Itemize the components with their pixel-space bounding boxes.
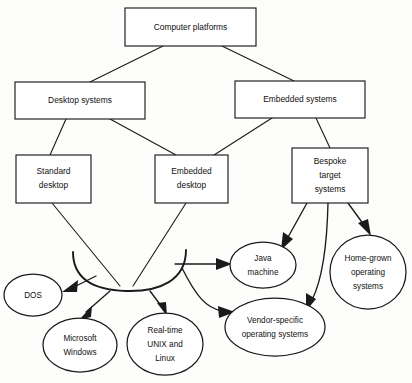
node-standard-desktop-label-line-2: desktop (39, 180, 69, 190)
node-java-machine[interactable]: Java machine (230, 242, 296, 288)
node-bespoke-target-systems-label-line-2: target (319, 170, 341, 180)
node-computer-platforms-label: Computer platforms (154, 22, 228, 32)
collector-arc-curve (73, 250, 186, 291)
edge-bespoke-to-vendor-specific-line (312, 203, 328, 300)
node-vendor-specific-operating-systems[interactable]: Vendor-specific operating systems (225, 298, 325, 356)
node-bespoke-target-systems-label-line-3: systems (315, 184, 346, 194)
diagram-canvas: Computer platforms Desktop systems Embed… (0, 0, 412, 383)
node-computer-platforms[interactable]: Computer platforms (125, 8, 256, 46)
node-vendor-specific-label-line-2: operating systems (242, 330, 308, 339)
node-java-machine-label-line-1: Java (254, 254, 272, 263)
node-standard-desktop-label-line-1: Standard (37, 166, 71, 176)
node-dos-label: DOS (24, 291, 42, 300)
edge-desktop-systems-to-standard-desktop (50, 119, 66, 155)
node-microsoft-windows-ellipse[interactable] (43, 318, 117, 372)
edge-group-arrows (62, 203, 371, 320)
node-standard-desktop[interactable]: Standard desktop (16, 155, 91, 203)
node-embedded-desktop-label-line-2: desktop (177, 180, 207, 190)
edge-computer-platforms-to-embedded-systems (222, 46, 294, 81)
node-desktop-systems[interactable]: Desktop systems (15, 82, 145, 119)
node-bespoke-target-systems[interactable]: Bespoke target systems (292, 148, 368, 203)
node-embedded-systems[interactable]: Embedded systems (235, 81, 365, 118)
node-bespoke-target-systems-label-line-1: Bespoke (314, 156, 347, 166)
edge-standard-desktop-to-collector-arc (52, 203, 120, 286)
node-vendor-specific-label-line-1: Vendor-specific (247, 316, 303, 325)
node-real-time-unix-label-line-3: Linux (155, 354, 175, 363)
edge-embedded-systems-to-bespoke-target-systems (316, 118, 330, 148)
node-real-time-unix-label-line-1: Real-time (147, 326, 182, 335)
edge-collector-arc-to-dos-arrowhead (62, 280, 78, 292)
edge-computer-platforms-to-desktop-systems (90, 46, 163, 82)
edge-collector-arc-to-vendor-specific-line (182, 268, 222, 311)
node-java-machine-label-line-2: machine (248, 268, 279, 277)
node-microsoft-windows-label-line-2: Windows (63, 348, 96, 357)
node-real-time-unix-and-linux[interactable]: Real-time UNIX and Linux (127, 313, 203, 375)
node-home-grown-label-line-2: operating (351, 268, 386, 277)
node-real-time-unix-label-line-2: UNIX and (147, 340, 183, 349)
node-home-grown-label-line-3: systems (353, 282, 383, 291)
collector-arc (73, 250, 186, 291)
edge-bespoke-to-home-grown-arrowhead (358, 219, 371, 236)
node-embedded-desktop-box[interactable] (155, 155, 228, 203)
node-microsoft-windows-label-line-1: Microsoft (63, 334, 97, 343)
node-embedded-desktop[interactable]: Embedded desktop (155, 155, 228, 203)
edge-desktop-systems-to-embedded-desktop (110, 119, 176, 155)
edge-embedded-systems-to-embedded-desktop (214, 118, 272, 155)
node-embedded-desktop-label-line-1: Embedded (171, 166, 212, 176)
node-dos[interactable]: DOS (4, 274, 62, 316)
node-desktop-systems-label: Desktop systems (48, 95, 112, 105)
node-vendor-specific-operating-systems-ellipse[interactable] (225, 298, 325, 356)
node-home-grown-label-line-1: Home-grown (345, 254, 392, 263)
node-java-machine-ellipse[interactable] (230, 242, 296, 288)
node-microsoft-windows[interactable]: Microsoft Windows (43, 318, 117, 372)
edge-bespoke-to-java-machine-line (287, 203, 307, 239)
node-embedded-systems-label: Embedded systems (263, 94, 337, 104)
node-home-grown-operating-systems[interactable]: Home-grown operating systems (330, 235, 406, 309)
node-standard-desktop-box[interactable] (16, 155, 91, 203)
platform-hierarchy-diagram: Computer platforms Desktop systems Embed… (0, 0, 412, 383)
